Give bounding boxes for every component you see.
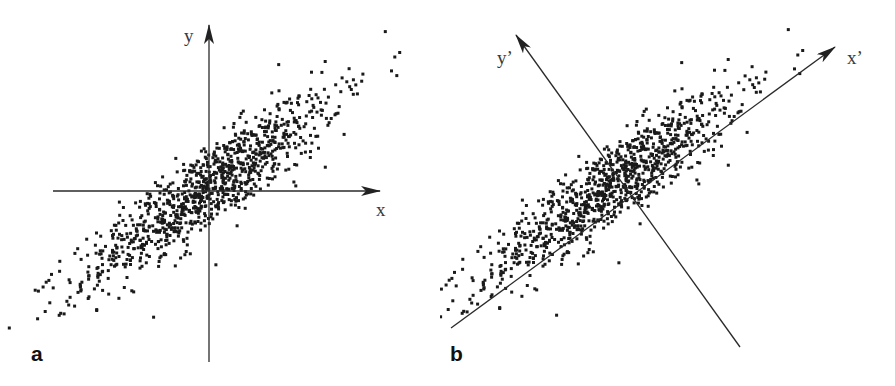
y-axis-label: y [184,26,194,45]
panel-b: y’ x’ b [440,0,895,386]
scatter-points [440,28,804,366]
x-axis-label: x [376,200,386,219]
scatter-plot-a [0,0,450,386]
panel-label-b: b [450,343,463,364]
x-prime-axis-label: x’ [847,48,863,67]
x-prime-axis [451,47,835,328]
panel-label-a: a [31,343,43,364]
y-prime-axis-label: y’ [497,48,513,67]
panel-a: y x a [0,0,450,386]
scatter-points [0,30,401,368]
